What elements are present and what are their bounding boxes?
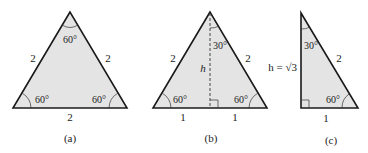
angle-left-label: 60° (35, 94, 49, 105)
angle-top-label: 30° (213, 40, 227, 51)
caption-b: (b) (205, 132, 218, 145)
height-label: h (200, 62, 206, 74)
angle-right-label: 60° (326, 94, 340, 105)
base-right-label: 1 (232, 111, 238, 123)
angle-right-label: 60° (234, 94, 248, 105)
hypotenuse-label: 2 (336, 52, 342, 64)
side-bottom-label: 2 (67, 111, 73, 123)
side-left-label: 2 (30, 52, 36, 64)
side-right-label: 2 (105, 52, 111, 64)
angle-top-label: 60° (63, 34, 77, 45)
figure-a: 60° 60° 60° 2 2 2 (a) (13, 12, 127, 145)
side-left-label: 2 (170, 52, 176, 64)
base-left-label: 1 (180, 111, 186, 123)
caption-a: (a) (64, 132, 77, 145)
caption-c: (c) (325, 134, 338, 147)
figure-c: 30° 60° h = √3 2 1 (c) (268, 13, 358, 147)
height-label: h = √3 (268, 61, 297, 73)
side-right-label: 2 (245, 52, 251, 64)
base-label: 1 (323, 112, 329, 124)
figure-b: 30° 60° 60° 2 2 h 1 1 (b) (153, 12, 267, 145)
angle-left-label: 60° (173, 94, 187, 105)
triangle-diagram: 60° 60° 60° 2 2 2 (a) 30° 60° 60° 2 2 h … (0, 0, 368, 153)
angle-top-label: 30° (304, 40, 318, 51)
angle-right-label: 60° (92, 94, 106, 105)
